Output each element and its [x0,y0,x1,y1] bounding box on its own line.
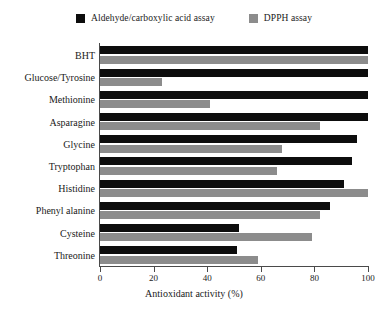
bar-group: Histidine [100,177,368,199]
bar-dpph-assay [100,256,258,264]
bar-aldehyde-carboxylic-acid-assay [100,202,330,210]
y-axis-category-label: Asparagine [49,116,95,127]
x-axis-tick-label: 40 [203,273,212,283]
bar-group: Glucose/Tyrosine [100,66,368,88]
x-axis-tick [154,267,155,272]
y-axis-category-label: Threonine [54,249,95,260]
bar-group: Phenyl alanine [100,199,368,221]
bar-dpph-assay [100,233,312,241]
bar-aldehyde-carboxylic-acid-assay [100,180,344,188]
bar-group: Asparagine [100,111,368,133]
x-axis-tick-label: 100 [361,273,375,283]
bar-group: BHT [100,44,368,66]
bar-dpph-assay [100,211,320,219]
bar-aldehyde-carboxylic-acid-assay [100,157,352,165]
bar-group: Tryptophan [100,155,368,177]
x-axis-tick-label: 60 [256,273,265,283]
x-axis-tick [368,267,369,272]
bar-dpph-assay [100,100,210,108]
y-axis-category-label: Tryptophan [49,161,95,172]
bar-aldehyde-carboxylic-acid-assay [100,69,368,77]
y-axis-category-label: Glucose/Tyrosine [25,72,95,83]
x-axis-tick-label: 0 [98,273,103,283]
bar-dpph-assay [100,78,162,86]
y-axis-category-label: Histidine [58,183,95,194]
y-axis-category-label: Cysteine [60,227,95,238]
bar-aldehyde-carboxylic-acid-assay [100,46,368,54]
y-axis-category-label: Phenyl alanine [36,205,95,216]
legend-swatch-black-icon [76,14,85,23]
x-axis-tick [314,267,315,272]
legend-item-dpph-assay: DPPH assay [249,14,312,24]
bar-dpph-assay [100,189,368,197]
bar-aldehyde-carboxylic-acid-assay [100,113,368,121]
bar-group: Methionine [100,88,368,110]
x-axis-title: Antioxidant activity (%) [0,288,388,299]
legend-label-aldehyde-carboxylic-acid-assay: Aldehyde/carboxylic acid assay [91,14,215,24]
antioxidant-activity-bar-chart: Aldehyde/carboxylic acid assay DPPH assa… [0,0,388,318]
bar-aldehyde-carboxylic-acid-assay [100,224,239,232]
plot-area: BHTGlucose/TyrosineMethionineAsparagineG… [100,44,368,266]
x-axis-tick [100,267,101,272]
bar-dpph-assay [100,122,320,130]
bar-group: Cysteine [100,222,368,244]
legend-label-dpph-assay: DPPH assay [264,14,312,24]
x-axis-tick [207,267,208,272]
y-axis-category-label: Methionine [49,94,95,105]
x-axis-tick [261,267,262,272]
bar-dpph-assay [100,167,277,175]
y-axis-category-label: Glycine [63,138,95,149]
bar-dpph-assay [100,56,368,64]
x-axis-tick-label: 80 [310,273,319,283]
bar-group: Threonine [100,244,368,266]
x-axis-tick-label: 20 [149,273,158,283]
chart-legend: Aldehyde/carboxylic acid assay DPPH assa… [0,14,388,24]
legend-item-aldehyde-carboxylic-acid-assay: Aldehyde/carboxylic acid assay [76,14,215,24]
bar-aldehyde-carboxylic-acid-assay [100,135,357,143]
bar-dpph-assay [100,145,282,153]
y-axis-category-label: BHT [75,50,95,61]
bar-aldehyde-carboxylic-acid-assay [100,91,368,99]
bar-aldehyde-carboxylic-acid-assay [100,246,237,254]
bar-group: Glycine [100,133,368,155]
x-axis-line [99,266,369,267]
legend-swatch-gray-icon [249,14,258,23]
